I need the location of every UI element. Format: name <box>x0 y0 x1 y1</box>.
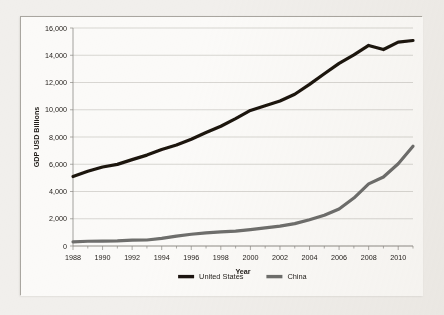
legend-label: United States <box>199 272 244 281</box>
gdp-line-chart: 02,0004,0006,0008,00010,00012,00014,0001… <box>21 17 423 296</box>
y-tick-label: 14,000 <box>45 51 67 60</box>
x-tick-label: 2008 <box>361 253 377 262</box>
y-tick-label: 10,000 <box>45 105 67 114</box>
y-tick-label: 0 <box>63 242 67 251</box>
y-tick-label: 8,000 <box>49 133 67 142</box>
y-tick-label: 4,000 <box>49 187 67 196</box>
chart-plot-area: 02,0004,0006,0008,00010,00012,00014,0001… <box>21 17 421 294</box>
x-tick-label: 1994 <box>154 253 170 262</box>
y-tick-label: 2,000 <box>49 214 67 223</box>
x-tick-label: 2000 <box>242 253 258 262</box>
y-tick-label: 16,000 <box>45 24 67 33</box>
x-tick-label: 2002 <box>272 253 288 262</box>
y-tick-label: 6,000 <box>49 160 67 169</box>
y-tick-labels: 02,0004,0006,0008,00010,00012,00014,0001… <box>45 24 67 251</box>
y-tick-label: 12,000 <box>45 78 67 87</box>
x-tick-label: 1992 <box>124 253 140 262</box>
x-tick-label: 2004 <box>302 253 318 262</box>
x-tick-label: 1998 <box>213 253 229 262</box>
x-tick-label: 1990 <box>95 253 111 262</box>
x-tick-label: 1988 <box>65 253 81 262</box>
y-axis-title: GDP USD Billions <box>32 107 41 168</box>
x-tick-label: 2010 <box>390 253 406 262</box>
chart-frame: 02,0004,0006,0008,00010,00012,00014,0001… <box>20 16 422 295</box>
legend-label: China <box>287 272 307 281</box>
x-tick-label: 2006 <box>331 253 347 262</box>
x-tick-label: 1996 <box>183 253 199 262</box>
